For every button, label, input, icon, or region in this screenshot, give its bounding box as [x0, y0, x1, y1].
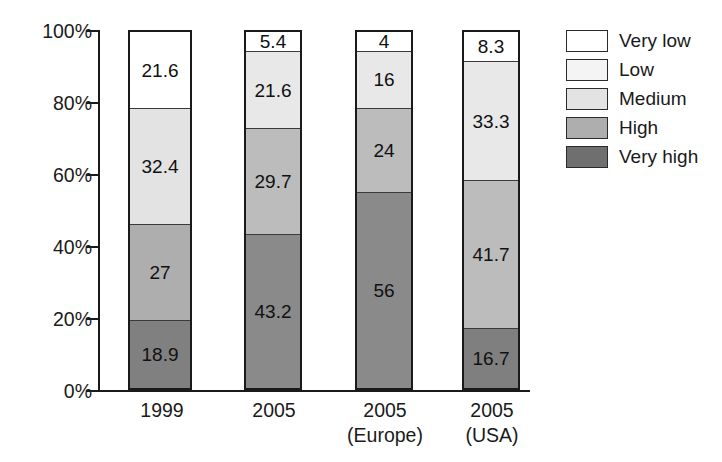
bar-segment-low: 21.6 [246, 52, 300, 129]
bar-segment-very-high: 18.9 [130, 321, 190, 388]
bar-segment-value: 32.4 [142, 157, 179, 176]
x-category-label-4: 2005 (USA) [418, 398, 566, 448]
bar-segment-low: 33.3 [464, 62, 518, 181]
bar-segment-medium: 32.4 [130, 109, 190, 224]
bar-segment-value: 5.4 [260, 32, 286, 51]
bar-segment-value: 21.6 [142, 61, 179, 80]
legend-swatch-very-high [566, 146, 608, 168]
y-tick-label-0: 0% [18, 380, 92, 403]
legend: Very low Low Medium High Very high [566, 26, 716, 171]
bar-segment-value: 24 [373, 141, 394, 160]
stacked-bar-chart: 100% 80% 60% 40% 20% 0% 21.6 32.4 27 18.… [0, 0, 722, 462]
bar-segment-value: 56 [373, 281, 394, 300]
y-tick-label-40: 40% [18, 236, 92, 259]
bar-segment-very-low: 4 [357, 32, 411, 52]
x-axis-line [98, 390, 530, 392]
bar-segment-value: 8.3 [478, 37, 504, 56]
bar-2005: 5.4 21.6 29.7 43.2 [244, 30, 302, 390]
y-tick-label-80: 80% [18, 92, 92, 115]
y-tick-label-100: 100% [18, 20, 92, 43]
legend-swatch-low [566, 59, 608, 81]
bar-segment-value: 29.7 [255, 172, 292, 191]
bar-segment-low: 16 [357, 52, 411, 109]
bar-segment-value: 43.2 [255, 302, 292, 321]
legend-swatch-high [566, 117, 608, 139]
x-category-main: 2005 [418, 398, 566, 423]
y-axis-tick-40 [86, 246, 98, 248]
bar-segment-very-high: 43.2 [246, 235, 300, 388]
legend-label: Low [619, 59, 654, 81]
legend-label: Very low [619, 30, 691, 52]
y-axis-tick-20 [86, 318, 98, 320]
bar-2005-usa: 8.3 33.3 41.7 16.7 [462, 30, 520, 390]
y-axis-tick-100 [86, 30, 98, 32]
bar-segment-high: 41.7 [464, 181, 518, 329]
x-category-sublabel: (USA) [418, 423, 566, 448]
bar-1999: 21.6 32.4 27 18.9 [128, 30, 192, 390]
y-axis-tick-0 [86, 390, 98, 392]
legend-item-high: High [566, 113, 716, 142]
bar-segment-very-high: 56 [357, 193, 411, 388]
bar-segment-value: 16.7 [473, 349, 510, 368]
y-axis-line [98, 30, 100, 392]
bar-segment-high: 24 [357, 109, 411, 194]
bar-segment-high: 27 [130, 225, 190, 321]
legend-item-very-low: Very low [566, 26, 716, 55]
legend-label: Medium [619, 88, 687, 110]
y-axis-tick-80 [86, 102, 98, 104]
bar-segment-value: 33.3 [473, 112, 510, 131]
y-tick-label-20: 20% [18, 308, 92, 331]
bar-segment-value: 18.9 [142, 345, 179, 364]
bar-segment-high: 29.7 [246, 129, 300, 235]
legend-swatch-very-low [566, 30, 608, 52]
plot-area: 21.6 32.4 27 18.9 5.4 21.6 29.7 [98, 30, 530, 392]
bar-2005-europe: 4 16 24 56 [355, 30, 413, 390]
bar-segment-very-low: 8.3 [464, 32, 518, 62]
bar-segment-value: 21.6 [255, 81, 292, 100]
legend-item-medium: Medium [566, 84, 716, 113]
legend-label: Very high [619, 146, 698, 168]
legend-swatch-medium [566, 88, 608, 110]
bar-segment-value: 27 [149, 263, 170, 282]
legend-label: High [619, 117, 658, 139]
y-tick-label-60: 60% [18, 164, 92, 187]
legend-item-low: Low [566, 55, 716, 84]
bar-segment-value: 41.7 [473, 245, 510, 264]
bar-segment-very-low: 5.4 [246, 32, 300, 52]
y-axis-tick-60 [86, 174, 98, 176]
bar-segment-value: 16 [373, 70, 394, 89]
legend-item-very-high: Very high [566, 142, 716, 171]
bar-segment-very-low: 21.6 [130, 32, 190, 109]
bar-segment-very-high: 16.7 [464, 329, 518, 388]
bar-segment-value: 4 [379, 32, 390, 51]
